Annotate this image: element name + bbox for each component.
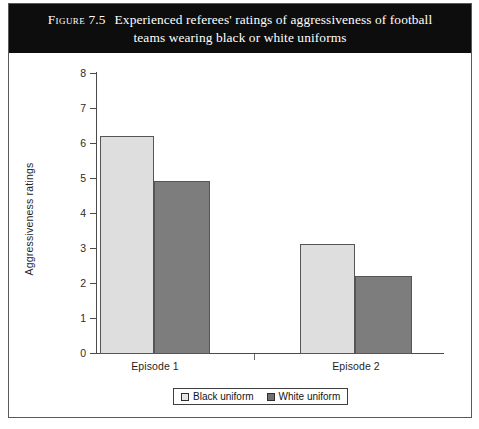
legend-label-black-uniform: Black uniform <box>193 391 254 402</box>
legend-item-white-uniform: White uniform <box>267 391 341 402</box>
bar-episode1-black-uniform <box>100 136 154 354</box>
bar-episode1-white-uniform <box>154 181 210 354</box>
y-tick-mark-7 <box>90 108 96 109</box>
legend-item-black-uniform: Black uniform <box>181 391 254 402</box>
y-tick-mark-5 <box>90 178 96 179</box>
x-category-label-episode-2: Episode 2 <box>300 360 412 372</box>
y-tick-mark-2 <box>90 283 96 284</box>
y-tick-label-0: 0 <box>66 348 86 359</box>
legend-label-white-uniform: White uniform <box>279 391 341 402</box>
y-tick-mark-8 <box>90 73 96 74</box>
y-tick-label-2: 2 <box>66 278 86 289</box>
chart-legend: Black uniform White uniform <box>173 388 348 405</box>
bar-episode2-black-uniform <box>300 244 355 354</box>
y-tick-mark-6 <box>90 143 96 144</box>
y-tick-label-3: 3 <box>66 243 86 254</box>
legend-swatch-white-uniform <box>267 393 275 401</box>
y-tick-label-6: 6 <box>66 138 86 149</box>
y-tick-label-1: 1 <box>66 313 86 324</box>
bar-episode2-white-uniform <box>355 276 412 354</box>
y-axis-line <box>96 72 97 354</box>
x-axis-mid-tick <box>254 354 255 360</box>
plot-area: 0 1 2 3 4 5 6 7 8 Aggressiveness ratings… <box>0 0 479 429</box>
y-tick-mark-3 <box>90 248 96 249</box>
x-category-label-episode-1: Episode 1 <box>100 360 210 372</box>
y-tick-label-4: 4 <box>66 208 86 219</box>
legend-swatch-black-uniform <box>181 393 189 401</box>
y-tick-mark-4 <box>90 213 96 214</box>
y-tick-label-7: 7 <box>66 103 86 114</box>
y-tick-label-5: 5 <box>66 173 86 184</box>
y-tick-mark-1 <box>90 318 96 319</box>
y-tick-mark-0 <box>90 353 96 354</box>
y-tick-label-8: 8 <box>66 68 86 79</box>
y-axis-title: Aggressiveness ratings <box>23 124 35 314</box>
